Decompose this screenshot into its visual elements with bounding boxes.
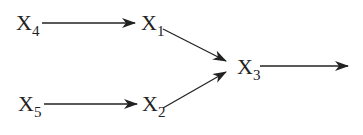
node-x1: X1 [141,12,164,34]
node-x5: X5 [18,93,41,115]
node-x4: X4 [16,12,39,34]
edges-layer [0,0,363,135]
edge-x2-x3 [163,72,226,108]
edge-x1-x3 [163,29,226,61]
node-x3: X3 [237,56,260,78]
node-x2: X2 [142,93,165,115]
diagram-canvas: X4 X1 X5 X2 X3 [0,0,363,135]
